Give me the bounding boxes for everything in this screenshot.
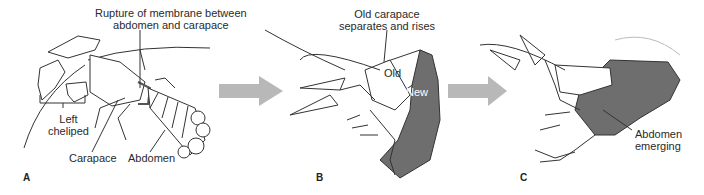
arrow-b-to-c xyxy=(448,76,507,106)
panel-letter-b: B xyxy=(316,172,323,183)
label-new: New xyxy=(406,86,428,98)
label-cheliped-line1: Left xyxy=(48,113,89,125)
label-old-carapace: Old carapace separates and rises xyxy=(339,8,435,32)
label-abdomen-emerging: Abdomen emerging xyxy=(635,128,682,152)
label-old-carapace-line1: Old carapace xyxy=(339,8,435,20)
arrow-a-to-b xyxy=(219,76,283,106)
lobster-a xyxy=(24,30,210,158)
panel-letter-a: A xyxy=(23,172,30,183)
lobster-b xyxy=(265,30,440,178)
label-old-carapace-line2: separates and rises xyxy=(339,20,435,32)
label-abdomen-emerging-line1: Abdomen xyxy=(635,128,682,140)
label-old: Old xyxy=(384,67,401,79)
label-carapace: Carapace xyxy=(69,152,117,164)
label-rupture-line2: abdomen and carapace xyxy=(95,19,247,31)
label-rupture-line1: Rupture of membrane between xyxy=(95,7,247,19)
label-abdomen-emerging-line2: emerging xyxy=(635,140,682,152)
label-rupture: Rupture of membrane between abdomen and … xyxy=(95,7,247,31)
label-abdomen: Abdomen xyxy=(128,152,175,164)
label-cheliped-line2: cheliped xyxy=(48,125,89,137)
panel-letter-c: C xyxy=(520,172,527,183)
label-left-cheliped: Left cheliped xyxy=(48,113,89,137)
